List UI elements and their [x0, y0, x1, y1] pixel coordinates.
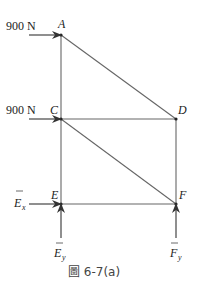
joint-label-C: C	[50, 103, 59, 117]
truss-members	[61, 35, 176, 204]
joint-label-F: F	[178, 188, 187, 202]
member-CF	[61, 119, 176, 204]
reaction-label-Fy: F y	[169, 243, 182, 262]
reaction-label-Ey: E y	[53, 243, 66, 262]
joint-label-D: D	[177, 103, 187, 117]
svg-text:E: E	[13, 196, 22, 210]
joint-label-E: E	[50, 188, 59, 202]
truss-diagram: 900 N 900 N A C D E F E x E y F y 圖 6-7(…	[0, 0, 203, 304]
load-label-C: 900 N	[6, 103, 36, 117]
svg-text:y: y	[177, 253, 182, 262]
joint-D	[174, 117, 177, 120]
member-AD	[61, 35, 176, 119]
figure-caption: 圖 6-7(a)	[68, 265, 120, 279]
svg-text:F: F	[169, 246, 178, 260]
svg-text:x: x	[21, 203, 26, 212]
reaction-label-Ex: E x	[13, 191, 26, 212]
joint-label-A: A	[57, 17, 66, 31]
svg-text:y: y	[61, 253, 66, 262]
svg-text:E: E	[53, 246, 62, 260]
load-label-A: 900 N	[6, 19, 36, 33]
